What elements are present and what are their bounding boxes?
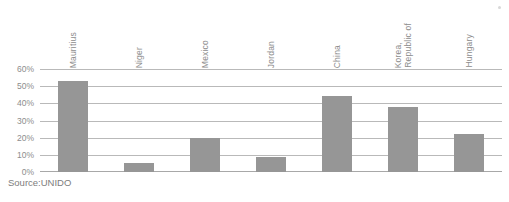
category-label-line: Hungary (465, 34, 474, 68)
category-label-line: Mexico (201, 40, 210, 68)
bar[interactable] (388, 107, 418, 172)
y-axis-tick-10pct: 10% (17, 151, 34, 160)
category-label-line: Mauritius (69, 32, 78, 68)
y-axis-tick-40pct: 40% (17, 99, 34, 108)
bar-slot (304, 69, 370, 172)
bar-slot (436, 69, 502, 172)
bar-slot (40, 69, 106, 172)
source-note: Source:UNIDO (8, 178, 71, 188)
bar[interactable] (124, 163, 154, 172)
y-axis-tick-50pct: 50% (17, 82, 34, 91)
y-axis-tick-labels: 60%50%40%30%20%10%0% (0, 69, 38, 172)
category-label: Niger (106, 4, 172, 68)
bar-slot (106, 69, 172, 172)
bar[interactable] (454, 134, 484, 172)
category-label-line: Jordan (267, 41, 276, 68)
category-label-line: Korea, (394, 42, 403, 68)
y-axis-tick-30pct: 30% (17, 116, 34, 125)
category-axis-labels: MauritiusNigerMexicoJordanChinaKorea,Rep… (40, 4, 502, 68)
category-label: Korea,Republic of (370, 4, 436, 68)
y-axis-tick-20pct: 20% (17, 133, 34, 142)
category-label: Jordan (238, 4, 304, 68)
bars-layer (40, 69, 502, 172)
bar[interactable] (190, 138, 220, 172)
category-label: Hungary (436, 4, 502, 68)
y-axis-tick-60pct: 60% (17, 65, 34, 74)
category-label: Mauritius (40, 4, 106, 68)
bar-slot (238, 69, 304, 172)
bar-chart: MauritiusNigerMexicoJordanChinaKorea,Rep… (0, 0, 509, 202)
category-label-line: Niger (135, 47, 144, 68)
category-label-line: Republic of (404, 23, 413, 68)
bar-slot (370, 69, 436, 172)
bar-slot (172, 69, 238, 172)
bar[interactable] (58, 81, 88, 172)
bar[interactable] (256, 157, 286, 172)
category-label-line: China (333, 45, 342, 68)
y-axis-tick-0pct: 0% (22, 168, 34, 177)
bar[interactable] (322, 96, 352, 172)
category-label: Mexico (172, 4, 238, 68)
category-label: China (304, 4, 370, 68)
